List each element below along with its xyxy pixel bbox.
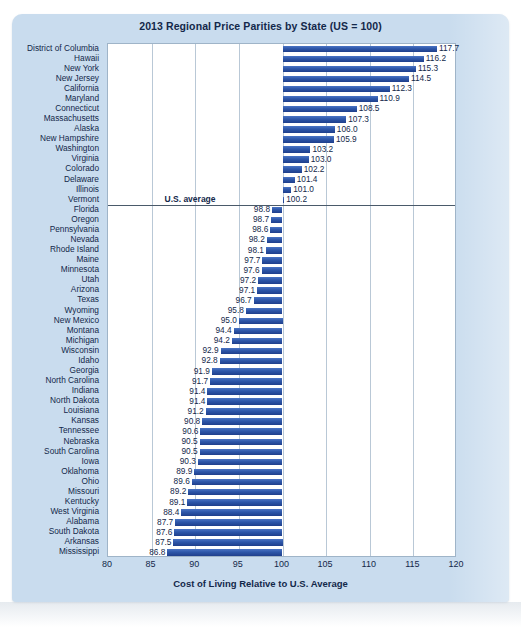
category-label: California bbox=[64, 83, 99, 93]
bar-value-label: 87.6 bbox=[156, 527, 172, 537]
bar bbox=[283, 56, 424, 63]
bar-row: 103.2 bbox=[108, 145, 455, 155]
bar bbox=[188, 489, 282, 496]
bar-row: 95.0 bbox=[108, 316, 455, 326]
bar-value-label: 112.3 bbox=[392, 83, 412, 93]
bar bbox=[239, 318, 283, 325]
chart-title: 2013 Regional Price Parities by State (U… bbox=[0, 20, 521, 32]
bar bbox=[262, 257, 282, 264]
us-average-label: U.S. average bbox=[165, 194, 216, 204]
bar-value-label: 96.7 bbox=[236, 295, 252, 305]
category-label: Mississippi bbox=[59, 546, 99, 556]
bar-value-label: 91.7 bbox=[192, 376, 208, 386]
category-label: Missouri bbox=[68, 486, 99, 496]
category-label: Utah bbox=[81, 274, 99, 284]
bar-row: 95.8 bbox=[108, 306, 455, 316]
category-label: Tennessee bbox=[59, 425, 99, 435]
category-label: Iowa bbox=[81, 456, 99, 466]
x-tick-95: 95 bbox=[233, 559, 243, 569]
bar-value-label: 90.5 bbox=[181, 446, 197, 456]
bar-value-label: 106.0 bbox=[337, 124, 358, 134]
bar-value-label: 89.6 bbox=[174, 476, 190, 486]
bar-row: 91.9 bbox=[108, 367, 455, 377]
bar-value-label: 108.5 bbox=[359, 103, 380, 113]
category-label: Oregon bbox=[71, 214, 99, 224]
bar bbox=[283, 86, 390, 93]
category-label: Nebraska bbox=[63, 436, 99, 446]
category-label: Virginia bbox=[71, 153, 99, 163]
bar-row: 94.2 bbox=[108, 336, 455, 346]
bar-value-label: 90.3 bbox=[180, 456, 196, 466]
category-label: New Jersey bbox=[56, 73, 99, 83]
bar bbox=[270, 227, 282, 234]
category-label: Washington bbox=[55, 143, 99, 153]
bar-row: 98.2 bbox=[108, 235, 455, 245]
category-label: New Hampshire bbox=[40, 133, 99, 143]
bar bbox=[283, 46, 437, 53]
bar-row: 91.4 bbox=[108, 387, 455, 397]
bar-value-label: 89.9 bbox=[176, 466, 192, 476]
category-label: South Carolina bbox=[44, 446, 99, 456]
bar-value-label: 86.8 bbox=[149, 547, 165, 557]
category-label: Colorado bbox=[65, 163, 99, 173]
bar-row: 90.3 bbox=[108, 457, 455, 467]
bar-value-label: 98.2 bbox=[249, 234, 265, 244]
bar-row: 94.4 bbox=[108, 326, 455, 336]
bar-value-label: 103.0 bbox=[311, 154, 332, 164]
bar-value-label: 117.7 bbox=[439, 43, 459, 53]
bar-row: 90.5 bbox=[108, 447, 455, 457]
bar bbox=[283, 197, 285, 204]
bar-row: 90.8 bbox=[108, 417, 455, 427]
bar-row: 105.9 bbox=[108, 135, 455, 145]
x-tick-115: 115 bbox=[405, 559, 419, 569]
bar bbox=[246, 308, 283, 315]
panel-sheen bbox=[449, 14, 509, 602]
x-axis-title: Cost of Living Relative to U.S. Average bbox=[0, 578, 521, 589]
bar-value-label: 101.0 bbox=[293, 184, 314, 194]
bar-value-label: 94.4 bbox=[215, 325, 231, 335]
bar bbox=[283, 116, 347, 123]
bar-value-label: 95.0 bbox=[221, 315, 237, 325]
category-label: Arizona bbox=[71, 284, 99, 294]
category-label: Arkansas bbox=[64, 536, 99, 546]
bar-value-label: 92.9 bbox=[202, 345, 218, 355]
bar-row: 90.6 bbox=[108, 427, 455, 437]
category-label: Vermont bbox=[68, 194, 99, 204]
category-label: Nevada bbox=[70, 234, 99, 244]
bar bbox=[210, 378, 282, 385]
bar-row: 90.5 bbox=[108, 437, 455, 447]
bar-value-label: 98.1 bbox=[248, 245, 264, 255]
bar-row: 89.6 bbox=[108, 477, 455, 487]
bar bbox=[198, 459, 283, 466]
bar bbox=[194, 469, 282, 476]
bar-row: 103.0 bbox=[108, 155, 455, 165]
bar bbox=[202, 418, 282, 425]
bar bbox=[221, 348, 283, 355]
page-shadow bbox=[0, 602, 521, 627]
category-label: West Virginia bbox=[50, 506, 99, 516]
bar bbox=[258, 277, 282, 284]
category-label: Michigan bbox=[66, 335, 99, 345]
bar-row: 98.7 bbox=[108, 215, 455, 225]
category-label: Alabama bbox=[66, 516, 99, 526]
bar bbox=[192, 479, 283, 486]
bar bbox=[173, 539, 282, 546]
bar bbox=[283, 166, 302, 173]
bar-row: 96.7 bbox=[108, 296, 455, 306]
category-label: North Dakota bbox=[50, 395, 99, 405]
bar bbox=[212, 368, 283, 375]
category-label: Illinois bbox=[76, 184, 99, 194]
category-label: South Dakota bbox=[49, 526, 99, 536]
bar-value-label: 90.5 bbox=[181, 436, 197, 446]
bar bbox=[207, 398, 282, 405]
bar-row: 107.3 bbox=[108, 115, 455, 125]
bar-row: 97.2 bbox=[108, 276, 455, 286]
bar bbox=[174, 529, 282, 536]
category-label: Maryland bbox=[65, 93, 99, 103]
bar-row: 117.7 bbox=[108, 44, 455, 54]
bar-row: 89.9 bbox=[108, 467, 455, 477]
bar bbox=[283, 146, 311, 153]
bar-row: 115.3 bbox=[108, 64, 455, 74]
bar-value-label: 91.4 bbox=[189, 386, 205, 396]
category-label: Ohio bbox=[81, 476, 99, 486]
